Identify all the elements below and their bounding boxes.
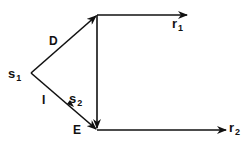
edge-label-D: D <box>49 34 58 48</box>
state-diagram: s1 D I s2 E r1 r2 <box>0 0 251 144</box>
node-r2: r2 <box>229 120 240 137</box>
edge-label-I: I <box>42 93 45 107</box>
node-s2: s2 <box>69 91 82 108</box>
edge-label-E: E <box>73 123 81 137</box>
edge-I <box>31 73 96 129</box>
edge-D <box>31 16 96 73</box>
node-r1: r1 <box>172 16 183 33</box>
node-s1: s1 <box>8 66 21 83</box>
